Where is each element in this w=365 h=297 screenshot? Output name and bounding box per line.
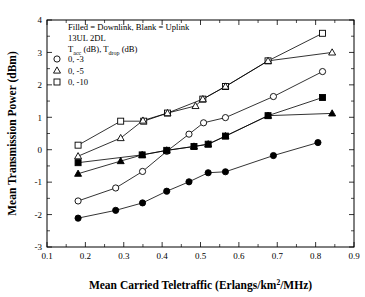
x-tick-label: 0.3 [118,251,130,261]
series-5-point-5 [205,170,211,176]
series-2-point-7 [270,93,276,99]
legend-label-2: 0, -10 [68,77,88,87]
x-tick-label: 0.9 [348,251,360,261]
series-line-1 [78,52,332,156]
series-2-point-4 [186,131,192,137]
series-2-point-0 [75,198,81,204]
series-0-point-1 [118,118,124,124]
x-tick-label: 0.1 [41,251,52,261]
legend-label-0: 0, -3 [68,54,84,64]
y-tick-label: 4 [38,15,43,25]
chart-canvas: 0.10.20.30.40.50.60.70.80.9-3-2-101234Me… [0,0,365,297]
x-tick-label: 0.7 [272,251,284,261]
chart-figure: 0.10.20.30.40.50.60.70.80.9-3-2-101234Me… [0,0,365,297]
series-3-point-7 [320,95,326,101]
series-2-point-2 [139,168,145,174]
x-tick-label: 0.8 [310,251,322,261]
y-tick-label: -2 [35,210,43,220]
series-5-point-4 [186,179,192,185]
series-4-point-8 [329,110,336,116]
y-axis-title: Mean Transmission Power (dBm) [6,51,19,216]
series-5-point-1 [113,207,119,213]
series-2-point-1 [113,185,119,191]
x-tick-label: 0.5 [195,251,207,261]
x-tick-label: 0.4 [157,251,169,261]
x-axis-title: Mean Carried Teletraffic (Erlangs/km2/MH… [89,278,312,293]
series-2-point-5 [200,120,206,126]
annotation-config: 13UL 2DL [68,33,106,43]
y-tick-label: 0 [38,145,43,155]
series-5-point-8 [315,139,321,145]
series-1-point-1 [117,134,124,140]
plot-frame [47,20,354,247]
series-line-5 [78,143,318,219]
legend-marker-2 [54,79,60,85]
series-0-point-7 [320,30,326,36]
series-line-3 [78,98,322,163]
y-tick-label: 2 [38,80,43,90]
y-tick-label: -1 [35,177,43,187]
series-line-2 [78,72,322,201]
legend-label-1: 0, -5 [68,66,84,76]
series-1-point-0 [75,153,82,159]
series-3-point-0 [75,160,81,166]
series-5-point-7 [270,152,276,158]
legend-marker-0 [54,56,60,62]
series-5-point-6 [222,169,228,175]
y-tick-label: 3 [38,48,43,58]
series-1-point-8 [329,49,336,55]
x-tick-label: 0.2 [80,251,91,261]
y-tick-label: -3 [35,242,43,252]
series-5-point-3 [164,188,170,194]
series-2-point-6 [222,115,228,121]
legend-marker-1 [54,67,61,73]
series-5-point-2 [139,200,145,206]
x-tick-label: 0.6 [233,251,245,261]
y-tick-label: 1 [38,113,43,123]
series-5-point-0 [75,215,81,221]
annotation-downlink-uplink: Filled = Downlink, Blank = Uplink [68,22,190,32]
series-2-point-8 [319,68,325,74]
series-0-point-0 [75,142,81,148]
